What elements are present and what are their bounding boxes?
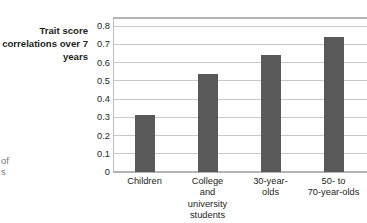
bar-slot — [302, 17, 365, 172]
x-tick-label: 30-year-olds — [239, 176, 302, 199]
bar-chart: 0.80.70.60.50.40.30.20.10 ChildrenColleg… — [0, 0, 367, 223]
x-tick-label-line: 30-year- — [239, 176, 302, 187]
y-axis-ticks: 0.80.70.60.50.40.30.20.10 — [84, 0, 110, 223]
bar[interactable] — [324, 37, 344, 172]
x-tick-label-line: and — [176, 187, 239, 198]
y-tick-label: 0.1 — [84, 149, 110, 159]
bar[interactable] — [261, 55, 281, 172]
x-tick-label: Children — [113, 176, 176, 187]
y-tick-label: 0.2 — [84, 131, 110, 141]
x-tick-label-line: College — [176, 176, 239, 187]
x-tick-label-line: students — [176, 210, 239, 221]
x-tick-label-line: 70-year-olds — [302, 187, 365, 198]
y-tick-label: 0 — [84, 167, 110, 177]
x-tick-label: 50- to70-year-olds — [302, 176, 365, 199]
y-tick-label: 0.7 — [84, 39, 110, 49]
x-tick-label-line: olds — [239, 187, 302, 198]
bar-slot — [113, 17, 176, 172]
y-tick-label: 0.8 — [84, 21, 110, 31]
x-axis-labels: ChildrenCollegeanduniversitystudents30-y… — [113, 176, 365, 223]
y-tick-label: 0.6 — [84, 58, 110, 68]
y-tick-label: 0.4 — [84, 94, 110, 104]
x-tick-label-line: university — [176, 199, 239, 210]
bars-layer — [113, 17, 365, 172]
y-tick-label: 0.5 — [84, 76, 110, 86]
x-tick-label-line: 50- to — [302, 176, 365, 187]
bar-slot — [176, 17, 239, 172]
x-tick-label: Collegeanduniversitystudents — [176, 176, 239, 221]
bar-slot — [239, 17, 302, 172]
y-tick-label: 0.3 — [84, 112, 110, 122]
x-tick-label-line: Children — [113, 176, 176, 187]
bar[interactable] — [198, 74, 218, 172]
bar[interactable] — [135, 115, 155, 172]
